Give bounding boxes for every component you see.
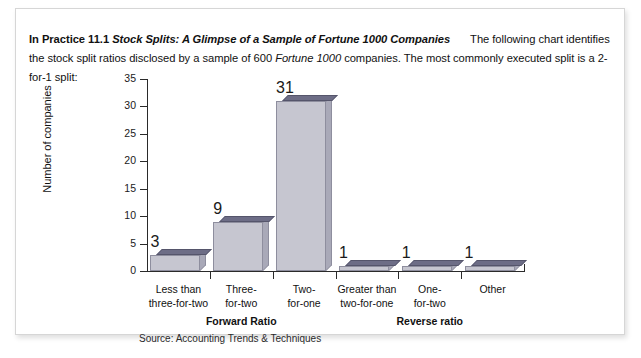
bar-value-label-1: 9 [213, 200, 269, 218]
bar-front-5 [465, 266, 515, 271]
x-tick-0 [147, 264, 148, 272]
category-label-line: One- [398, 282, 461, 296]
y-tick-label-0: 0 [114, 264, 136, 276]
category-label-0: Less thanthree-for-two [147, 282, 210, 310]
category-label-line: Less than [147, 282, 210, 296]
bar-1 [213, 216, 269, 271]
bar-side-2 [326, 95, 332, 271]
category-label-4: One-for-two [398, 282, 461, 310]
y-tick-20 [140, 161, 148, 162]
x-tick-6 [524, 264, 525, 272]
group-label-0: Forward Ratio [147, 315, 336, 327]
intro-label: In Practice 11.1 [29, 33, 109, 45]
x-tick-4 [398, 272, 399, 279]
x-tick-5 [461, 272, 462, 279]
category-label-line: three-for-two [147, 296, 210, 310]
y-tick-label-30: 30 [114, 99, 136, 111]
y-tick-label-20: 20 [114, 154, 136, 166]
source-note: Source: Accounting Trends & Techniques [139, 333, 321, 344]
y-tick-label-5: 5 [114, 237, 136, 249]
category-label-1: Three-for-two [210, 282, 273, 310]
bar-front-2 [276, 101, 326, 271]
bar-2 [276, 95, 332, 271]
intro-title: Stock Splits: A Glimpse of a Sample of F… [112, 33, 450, 45]
y-tick-30 [140, 106, 148, 107]
category-label-line: Three- [210, 282, 273, 296]
in-practice-card: In Practice 11.1 Stock Splits: A Glimpse… [15, 8, 625, 335]
x-tick-1 [210, 272, 211, 279]
bar-side-1 [263, 216, 269, 271]
group-label-1: Reverse ratio [336, 315, 525, 327]
bar-front-3 [339, 266, 389, 271]
y-tick-label-15: 15 [114, 182, 136, 194]
category-label-line: for-one [273, 296, 336, 310]
y-tick-label-25: 25 [114, 127, 136, 139]
y-tick-35 [140, 79, 148, 80]
category-label-line: Other [461, 282, 524, 296]
category-label-line: for-two [398, 296, 461, 310]
category-label-5: Other [461, 282, 524, 296]
y-tick-label-35: 35 [114, 72, 136, 84]
y-tick-5 [140, 244, 148, 245]
y-tick-10 [140, 216, 148, 217]
x-tick-3 [336, 272, 337, 279]
x-tick-2 [273, 272, 274, 279]
bar-value-label-0: 3 [150, 233, 206, 251]
bar-0 [150, 249, 206, 271]
bar-front-0 [150, 255, 200, 271]
bar-value-label-2: 31 [276, 79, 332, 97]
stock-splits-bar-chart: Number of companies 05101520253035 39311… [16, 61, 626, 336]
y-axis-title: Number of companies [41, 64, 53, 214]
category-label-3: Greater thantwo-for-one [336, 282, 399, 310]
bar-value-label-5: 1 [465, 244, 521, 262]
y-tick-25 [140, 134, 148, 135]
y-tick-15 [140, 189, 148, 190]
bar-front-1 [213, 222, 263, 271]
bar-value-label-3: 1 [339, 244, 395, 262]
bar-front-4 [402, 266, 452, 271]
category-label-2: Two-for-one [273, 282, 336, 310]
category-label-line: Two- [273, 282, 336, 296]
y-tick-label-10: 10 [114, 209, 136, 221]
category-label-line: Greater than [336, 282, 399, 296]
bar-value-label-4: 1 [402, 244, 458, 262]
category-label-line: for-two [210, 296, 273, 310]
category-label-line: two-for-one [336, 296, 399, 310]
